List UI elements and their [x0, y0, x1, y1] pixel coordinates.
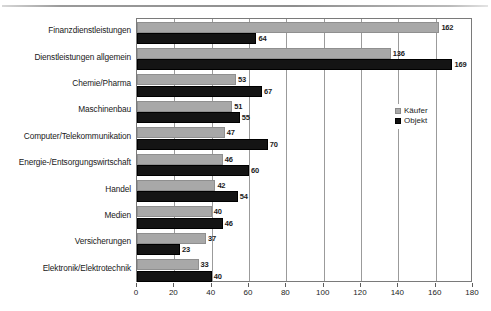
- bar-value-label: 55: [242, 112, 250, 123]
- bar-value-label: 70: [270, 139, 278, 150]
- legend-item-kaeufer: Käufer: [395, 106, 428, 116]
- x-axis-tick: [435, 283, 436, 287]
- bar-kaeufer: [137, 259, 199, 270]
- category-label: Dienstleistungen allgemein: [34, 52, 131, 62]
- x-axis-tick-label: 80: [281, 288, 290, 297]
- x-axis: 020406080100120140160180: [136, 283, 472, 307]
- x-axis-tick: [248, 283, 249, 287]
- category-label: Handel: [105, 184, 131, 194]
- bar-value-label: 51: [234, 101, 242, 112]
- x-axis-tick: [136, 283, 137, 287]
- bar-kaeufer: [137, 101, 232, 112]
- legend-label-kaeufer: Käufer: [404, 106, 428, 116]
- bar-value-label: 42: [217, 180, 225, 191]
- category-label: Energie-/Entsorgungswirtschaft: [19, 157, 131, 167]
- bar-value-label: 136: [393, 48, 405, 59]
- bar-value-label: 23: [182, 244, 190, 255]
- bar-value-label: 40: [214, 271, 222, 282]
- category-label: Maschinenbau: [78, 104, 131, 114]
- x-axis-tick-label: 40: [206, 288, 215, 297]
- category-axis: FinanzdienstleistungenDienstleistungen a…: [0, 18, 131, 282]
- bar-objekt: [137, 244, 180, 255]
- x-axis-tick: [211, 283, 212, 287]
- bar-value-label: 46: [225, 218, 233, 229]
- bar-objekt: [137, 33, 256, 44]
- x-axis-tick: [360, 283, 361, 287]
- bar-value-label: 54: [240, 191, 248, 202]
- chart-legend: Käufer Objekt: [392, 104, 432, 129]
- bar-value-label: 169: [454, 59, 466, 70]
- x-axis-tick-label: 140: [391, 288, 404, 297]
- category-label: Elektronik/Elektrotechnik: [43, 263, 131, 273]
- bar-kaeufer: [137, 22, 439, 33]
- bar-kaeufer: [137, 180, 215, 191]
- bar-group: 4660: [137, 151, 471, 177]
- x-axis-tick-label: 160: [428, 288, 441, 297]
- bar-value-label: 64: [258, 33, 266, 44]
- bar-kaeufer: [137, 48, 391, 59]
- bar-objekt: [137, 271, 212, 282]
- bar-value-label: 162: [441, 22, 453, 33]
- category-label: Computer/Telekommunikation: [24, 131, 131, 141]
- bar-group: 4046: [137, 204, 471, 230]
- category-label: Versicherungen: [75, 236, 131, 246]
- bar-objekt: [137, 139, 268, 150]
- bar-group: 5367: [137, 72, 471, 98]
- x-axis-tick-label: 0: [134, 288, 138, 297]
- bar-value-label: 67: [264, 86, 272, 97]
- x-axis-tick: [323, 283, 324, 287]
- x-axis-tick: [472, 283, 473, 287]
- legend-item-objekt: Objekt: [395, 116, 428, 126]
- bar-value-label: 33: [201, 259, 209, 270]
- x-axis-tick-label: 100: [316, 288, 329, 297]
- legend-label-objekt: Objekt: [404, 116, 427, 126]
- x-axis-tick: [173, 283, 174, 287]
- x-axis-tick: [285, 283, 286, 287]
- bar-value-label: 46: [225, 154, 233, 165]
- bar-objekt: [137, 191, 238, 202]
- category-label: Medien: [104, 210, 131, 220]
- bar-objekt: [137, 112, 240, 123]
- bar-kaeufer: [137, 206, 212, 217]
- bar-kaeufer: [137, 127, 225, 138]
- bar-kaeufer: [137, 233, 206, 244]
- bar-value-label: 40: [214, 206, 222, 217]
- x-axis-tick-label: 60: [244, 288, 253, 297]
- bar-group: 16264: [137, 19, 471, 45]
- x-axis-tick-label: 180: [465, 288, 478, 297]
- plot-area: 1626413616953675155477046604254404637233…: [136, 18, 472, 282]
- bar-value-label: 53: [238, 74, 246, 85]
- bar-value-label: 60: [251, 165, 259, 176]
- bar-group: 4254: [137, 177, 471, 203]
- bar-group: 3723: [137, 230, 471, 256]
- legend-swatch-objekt: [395, 118, 401, 124]
- category-label: Chemie/Pharma: [72, 78, 131, 88]
- x-axis-tick-label: 20: [169, 288, 178, 297]
- bar-group: 3340: [137, 257, 471, 283]
- bar-kaeufer: [137, 154, 223, 165]
- bar-group: 136169: [137, 45, 471, 71]
- bar-objekt: [137, 86, 262, 97]
- x-axis-tick-label: 120: [353, 288, 366, 297]
- x-axis-tick: [397, 283, 398, 287]
- horizontal-bar-chart: FinanzdienstleistungenDienstleistungen a…: [0, 0, 491, 311]
- bar-value-label: 47: [227, 127, 235, 138]
- legend-swatch-kaeufer: [395, 108, 401, 114]
- bar-value-label: 37: [208, 233, 216, 244]
- bar-objekt: [137, 218, 223, 229]
- bar-objekt: [137, 165, 249, 176]
- bar-objekt: [137, 59, 452, 70]
- bar-kaeufer: [137, 74, 236, 85]
- category-label: Finanzdienstleistungen: [48, 25, 131, 35]
